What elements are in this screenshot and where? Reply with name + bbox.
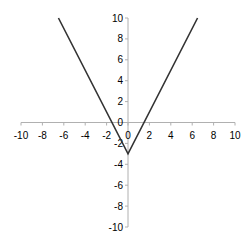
y-tick-label: -10 — [109, 222, 124, 233]
y-tick-label: 6 — [117, 54, 123, 65]
axes — [21, 18, 235, 227]
line-chart: -10-8-6-4-20246810-10-8-6-4-20246810 — [0, 0, 248, 245]
x-tick-label: 8 — [211, 130, 217, 141]
x-tick-label: 6 — [189, 130, 195, 141]
y-tick-label: -4 — [114, 159, 123, 170]
x-tick-label: -8 — [38, 130, 47, 141]
x-tick-label: 2 — [147, 130, 153, 141]
y-tick-label: 8 — [117, 33, 123, 44]
y-tick-label: 10 — [112, 13, 124, 24]
x-tick-label: 10 — [229, 130, 241, 141]
y-tick-label: 4 — [117, 75, 123, 86]
x-tick-label: -4 — [81, 130, 90, 141]
x-tick-label: 4 — [168, 130, 174, 141]
y-tick-label: 0 — [117, 117, 123, 128]
x-tick-label: 0 — [125, 130, 131, 141]
x-tick-label: -6 — [59, 130, 68, 141]
y-tick-label: -6 — [114, 180, 123, 191]
x-tick-label: -2 — [102, 130, 111, 141]
y-tick-label: -8 — [114, 201, 123, 212]
x-tick-label: -10 — [14, 130, 29, 141]
y-tick-label: 2 — [117, 96, 123, 107]
